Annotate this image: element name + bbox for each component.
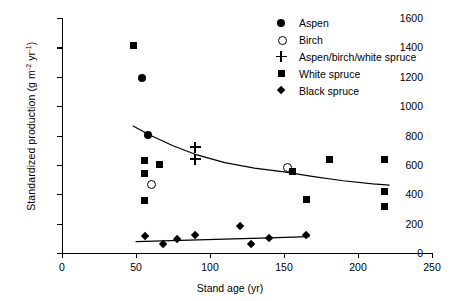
y-axis-title-sup1: -2 xyxy=(25,64,32,70)
x-tick xyxy=(210,253,211,258)
legend-label: Birch xyxy=(299,34,323,46)
y-axis-title-main: Standardized production (g m xyxy=(25,70,37,211)
x-tick-label: 150 xyxy=(264,261,304,273)
legend-label: White spruce xyxy=(299,68,360,80)
data-point-white-spruce xyxy=(141,157,148,164)
y-axis-title: Standardized production (g m-2 yr-1) xyxy=(25,11,38,241)
legend-item-aspen-birch-white-spruce[interactable]: Aspen/birch/white spruce xyxy=(273,48,416,65)
filled-square-icon xyxy=(273,65,299,82)
x-tick-label: 250 xyxy=(412,261,452,273)
y-axis-title-tail: ) xyxy=(25,42,37,46)
y-axis-title-mid: yr xyxy=(25,52,37,64)
data-point-white-spruce xyxy=(381,156,388,163)
x-tick xyxy=(432,253,433,258)
legend: AspenBirchAspen/birch/white spruceWhite … xyxy=(273,14,416,99)
x-tick xyxy=(284,253,285,258)
legend-item-black-spruce[interactable]: Black spruce xyxy=(273,82,416,99)
data-point-aspen-birch-white-spruce xyxy=(190,142,201,153)
legend-label: Black spruce xyxy=(299,85,359,97)
legend-label: Aspen xyxy=(299,17,329,29)
data-point-aspen xyxy=(144,131,152,139)
filled-circle-glyph xyxy=(277,19,285,27)
filled-circle-icon xyxy=(273,14,299,31)
data-point-white-spruce xyxy=(303,196,310,203)
data-point-white-spruce xyxy=(141,197,148,204)
legend-item-white-spruce[interactable]: White spruce xyxy=(273,65,416,82)
x-axis-line xyxy=(62,253,432,254)
legend-label: Aspen/birch/white spruce xyxy=(299,51,416,63)
x-tick xyxy=(358,253,359,258)
figure: Standardized production (g m-2 yr-1) Sta… xyxy=(0,0,460,301)
y-axis-title-sup2: -1 xyxy=(25,45,32,51)
data-point-birch xyxy=(147,180,156,189)
data-point-white-spruce xyxy=(381,188,388,195)
x-axis-title: Stand age (yr) xyxy=(0,282,460,294)
plus-glyph xyxy=(276,51,287,62)
data-point-white-spruce xyxy=(381,203,388,210)
data-point-white-spruce xyxy=(289,168,296,175)
filled-square-glyph xyxy=(278,70,285,77)
filled-diamond-glyph xyxy=(277,86,286,95)
legend-item-birch[interactable]: Birch xyxy=(273,31,416,48)
filled-diamond-icon xyxy=(273,82,299,99)
data-point-white-spruce xyxy=(326,156,333,163)
data-point-white-spruce xyxy=(130,42,137,49)
data-point-white-spruce xyxy=(141,170,148,177)
x-tick-label: 50 xyxy=(116,261,156,273)
x-tick xyxy=(62,253,63,258)
open-circle-icon xyxy=(273,31,299,48)
x-tick xyxy=(136,253,137,258)
data-point-white-spruce xyxy=(156,161,163,168)
plus-icon xyxy=(273,48,299,65)
x-tick-label: 0 xyxy=(42,261,82,273)
x-tick-label: 100 xyxy=(190,261,230,273)
upper-trend xyxy=(133,126,389,185)
x-tick-label: 200 xyxy=(338,261,378,273)
data-point-aspen-birch-white-spruce xyxy=(190,154,201,165)
legend-item-aspen[interactable]: Aspen xyxy=(273,14,416,31)
open-circle-glyph xyxy=(278,36,287,45)
